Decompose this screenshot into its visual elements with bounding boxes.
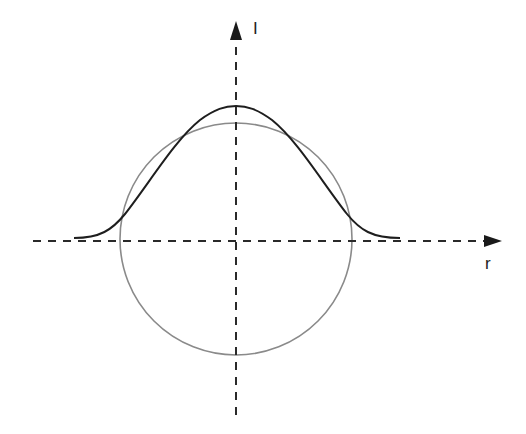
i-axis-arrow-icon	[230, 21, 242, 40]
r-axis-label: r	[485, 255, 491, 272]
i-axis-label: I	[253, 20, 258, 37]
r-axis-arrow-icon	[484, 235, 502, 247]
diagram-canvas: I r	[0, 0, 526, 434]
diagram-svg	[0, 0, 526, 434]
